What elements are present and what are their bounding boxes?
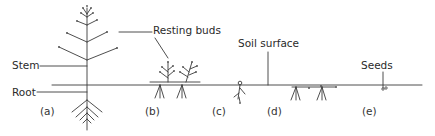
label-resting-buds: Resting buds	[153, 25, 221, 36]
panel-label-a: (a)	[40, 106, 55, 117]
panel-label-b: (b)	[145, 106, 160, 117]
resting-buds-pointer-b	[155, 38, 168, 58]
label-soil-surface: Soil surface	[238, 38, 299, 49]
plant-a	[58, 5, 118, 130]
label-seeds: Seeds	[361, 60, 393, 71]
panel-label-e: (e)	[362, 106, 377, 117]
label-root: Root	[12, 87, 36, 98]
panel-label-c: (c)	[212, 106, 226, 117]
plant-d	[291, 85, 337, 100]
life-forms-diagram: Stem Root Resting buds Soil surface Seed…	[0, 0, 435, 136]
plant-b	[150, 61, 200, 98]
panel-label-d: (d)	[267, 106, 282, 117]
label-stem: Stem	[12, 60, 39, 71]
